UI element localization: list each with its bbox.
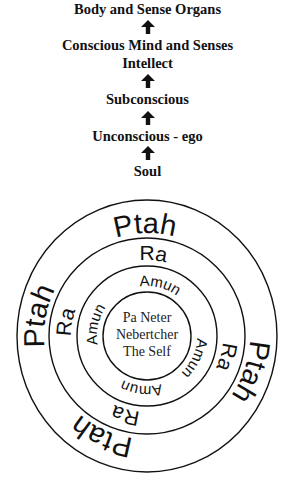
level-subconscious: Subconscious (0, 91, 295, 107)
ra-label-top: Ra (139, 241, 169, 266)
up-arrow-icon (140, 74, 156, 88)
ra-label-left: Ra (52, 305, 80, 337)
center-line-pa-neter: Pa Neter (123, 310, 172, 325)
amun-label-bottom: Amun (118, 377, 164, 400)
level-body-and-sense-organs: Body and Sense Organs (0, 1, 295, 17)
up-arrow-icon (140, 20, 156, 34)
up-arrow-icon (140, 111, 156, 125)
center-line-nebertcher: Nebertcher (116, 327, 179, 342)
level-conscious-mind-and-senses: Conscious Mind and Senses (0, 37, 295, 53)
level-soul: Soul (0, 163, 295, 179)
ptah-label-top: Ptah (110, 207, 179, 243)
center-line-the-self: The Self (123, 344, 171, 359)
concentric-circles-diagram: Ptah Ptah Ptah Ptah Ra Ra Ra Ra Amun Amu… (0, 180, 295, 485)
up-arrow-icon (140, 146, 156, 160)
level-intellect: Intellect (0, 55, 295, 71)
level-unconscious-ego: Unconscious - ego (0, 128, 295, 144)
